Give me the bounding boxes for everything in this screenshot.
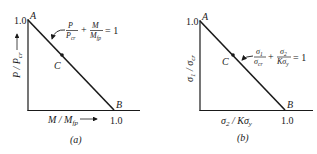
point-b-label: B [116,99,122,110]
point-c-label: C [222,56,229,67]
x-axis-label: σ2 / Kσy [221,115,253,128]
y-tick-label: 1.0 [186,16,199,27]
svg-text:Mfp: Mfp [89,31,101,41]
point-c-dot [60,53,64,57]
x-tick-label: 1.0 [281,115,294,126]
svg-text:= 1: = 1 [293,52,306,63]
equation-b: σ1 σcr + σ2 Kσy = 1 [242,47,306,67]
svg-text:σ1: σ1 [256,47,263,57]
callout-arrow-icon [242,56,253,60]
interaction-line [28,20,114,110]
caption-b: (b) [237,132,249,144]
y-tick-label: 1.0 [14,15,27,26]
caption-a: (a) [70,134,82,146]
panel-b: 1.0 A C B 1.0 σ1 / σcr σ2 / Kσy σ1 σcr +… [184,11,313,144]
y-axis-label: P / Pcr [11,34,24,79]
x-axis-label: M / Mfp [47,114,97,127]
point-c-dot [231,53,235,57]
callout-arrow-icon [52,30,65,39]
point-a-label: A [29,10,37,21]
svg-text:M / Mfp: M / Mfp [47,114,78,127]
svg-text:P: P [67,21,73,30]
svg-text:σ2: σ2 [280,47,287,57]
point-b-label: B [287,99,293,110]
x-tick-label: 1.0 [110,115,123,126]
svg-text:M: M [91,21,100,30]
point-a-label: A [201,11,209,22]
y-axis-label: σ1 / σcr [184,55,197,82]
equation-a: P Pcr + M Mfp = 1 [52,21,118,41]
svg-text:σcr: σcr [254,57,263,67]
svg-text:P / Pcr: P / Pcr [11,52,24,79]
interaction-diagrams: 1.0 A C B 1.0 P / Pcr M / Mfp P Pcr + M [0,0,317,154]
interaction-line [200,21,285,110]
svg-text:+: + [268,51,274,62]
svg-text:σ1 / σcr: σ1 / σcr [184,55,197,82]
point-c-label: C [54,60,61,71]
panel-a: 1.0 A C B 1.0 P / Pcr M / Mfp P Pcr + M [11,10,140,146]
svg-text:+: + [81,24,87,35]
svg-text:Kσy: Kσy [276,57,289,67]
svg-text:Pcr: Pcr [65,31,76,41]
svg-text:= 1: = 1 [105,25,118,36]
